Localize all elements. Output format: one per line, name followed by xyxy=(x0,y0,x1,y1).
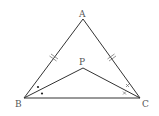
segment-ac xyxy=(83,19,140,98)
segment-pb xyxy=(24,68,83,98)
angle-dot-pbc xyxy=(41,92,43,94)
label-c: C xyxy=(142,99,149,109)
label-b: B xyxy=(15,99,22,109)
label-p: P xyxy=(79,57,85,67)
angle-cross-pcb xyxy=(123,92,126,95)
segment-pc xyxy=(83,68,140,98)
label-a: A xyxy=(78,9,86,19)
angle-cross-acp xyxy=(126,84,129,87)
angle-dot-abp xyxy=(37,86,39,88)
triangle-diagram: A P B C xyxy=(0,0,159,116)
